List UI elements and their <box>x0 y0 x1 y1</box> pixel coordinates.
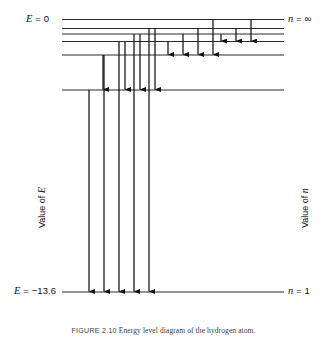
axis-label-right-symbol: n <box>299 188 310 193</box>
figure-caption: FIGURE 2.10 Energy level diagram of the … <box>0 326 327 338</box>
figure-caption-text: Energy level diagram of the hydrogen ato… <box>119 326 256 335</box>
label-quantum-top: n = ∞ <box>288 13 311 24</box>
label-energy-bottom-value: = −13.6 <box>21 285 57 296</box>
label-energy-bottom: E = −13.6 <box>14 285 56 296</box>
axis-label-right-prefix: Value of <box>300 193 310 228</box>
label-energy-top-value: = 0 <box>33 13 50 24</box>
axis-label-left-prefix: Value of <box>37 193 47 228</box>
axis-label-left-symbol: E <box>36 187 47 193</box>
label-quantum-bottom: n = 1 <box>288 285 310 296</box>
label-energy-top: E = 0 <box>26 13 49 24</box>
label-quantum-bottom-value: = 1 <box>293 285 310 296</box>
axis-label-value-of-n: Value of n <box>299 188 310 228</box>
transition-arrows-group <box>89 20 251 292</box>
label-quantum-top-value: = ∞ <box>293 13 311 24</box>
figure-caption-id: FIGURE 2.10 <box>71 327 116 334</box>
energy-level-diagram-figure: E = 0 n = ∞ E = −13.6 n = 1 Value of E V… <box>0 0 327 338</box>
energy-levels-group <box>62 20 284 293</box>
axis-label-value-of-e: Value of E <box>36 187 47 228</box>
